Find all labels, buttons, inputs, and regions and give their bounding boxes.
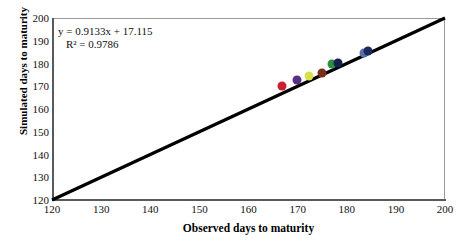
x-axis-title: Observed days to maturity (52, 222, 445, 234)
x-tick-label: 150 (191, 204, 208, 215)
x-tick-label: 130 (93, 204, 110, 215)
x-tick-label: 200 (437, 204, 454, 215)
x-tick-label: 180 (339, 204, 356, 215)
x-tick-label: 190 (388, 204, 405, 215)
scatter-point (304, 71, 313, 80)
y-tick-label: 130 (3, 172, 49, 183)
x-tick-label: 120 (44, 204, 61, 215)
y-axis-title: Simulated days to maturity (17, 0, 29, 156)
chart-canvas: 120130140150160170180190200 120130140150… (0, 0, 467, 245)
scatter-point (292, 76, 301, 85)
r-squared-text: R² = 0.9786 (58, 38, 153, 51)
scatter-point (277, 82, 286, 91)
regression-equation-text: y = 0.9133x + 17.115 (58, 25, 153, 38)
x-tick-label: 170 (289, 204, 306, 215)
regression-annotation: y = 0.9133x + 17.115 R² = 0.9786 (58, 25, 153, 51)
x-axis-tick-labels: 120130140150160170180190200 (52, 204, 445, 218)
y-tick-label: 120 (3, 195, 49, 206)
x-tick-label: 140 (142, 204, 159, 215)
x-tick-label: 160 (240, 204, 257, 215)
scatter-point (363, 46, 372, 55)
scatter-point (334, 59, 343, 68)
scatter-point (318, 69, 327, 78)
